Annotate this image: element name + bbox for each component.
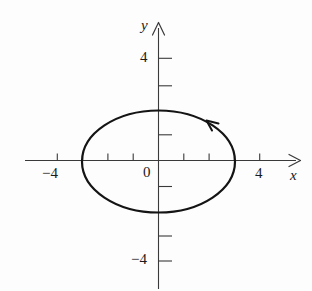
y-tick-label--4: −4 bbox=[131, 252, 147, 267]
x-tick-label-4: 4 bbox=[255, 166, 263, 181]
origin-label: 0 bbox=[143, 165, 151, 180]
x-tick-label--4: −4 bbox=[42, 166, 58, 181]
y-axis-ticks bbox=[159, 58, 173, 261]
y-axis-name-label: y bbox=[141, 18, 148, 33]
y-axis bbox=[153, 23, 165, 290]
x-axis-name-label: x bbox=[290, 168, 297, 183]
coordinate-plot bbox=[0, 0, 312, 291]
y-tick-label-4: 4 bbox=[140, 50, 148, 65]
figure-canvas: y x 4 −4 −4 4 0 bbox=[0, 0, 312, 291]
